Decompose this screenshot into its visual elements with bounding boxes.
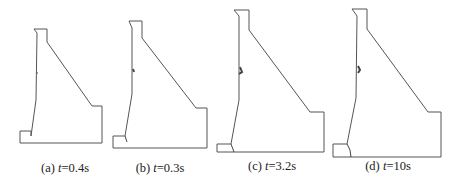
- caption-a: (a) t=0.4s: [41, 161, 89, 176]
- caption-b-value: =0.3s: [157, 161, 185, 175]
- caption-c: (c) t=3.2s: [248, 159, 296, 174]
- dam-panel-a: [20, 29, 102, 143]
- caption-a-prefix: (a): [41, 161, 58, 175]
- caption-c-value: =3.2s: [268, 159, 296, 173]
- dam-outline-c: [217, 10, 324, 152]
- dam-outline-b: [113, 21, 207, 148]
- dam-panel-c: [217, 10, 324, 152]
- crack-d: [347, 144, 351, 157]
- dam-outline-d: [333, 9, 441, 157]
- caption-a-value: =0.4s: [61, 161, 89, 175]
- crack-b: [125, 136, 127, 142]
- dam-crack-diagram: [0, 0, 462, 183]
- caption-b-prefix: (b): [136, 161, 154, 175]
- crack-d-upstream: [358, 66, 360, 73]
- crack-c: [231, 144, 234, 152]
- dam-panel-d: [333, 9, 441, 157]
- caption-d: (d) t=10s: [365, 159, 411, 174]
- caption-d-prefix: (d): [365, 159, 383, 173]
- crack-b-upstream: [133, 69, 134, 72]
- caption-d-value: =10s: [386, 159, 410, 173]
- dam-outline-a: [20, 29, 102, 143]
- caption-c-prefix: (c): [248, 159, 265, 173]
- caption-b: (b) t=0.3s: [136, 161, 185, 176]
- dam-panel-b: [113, 21, 207, 148]
